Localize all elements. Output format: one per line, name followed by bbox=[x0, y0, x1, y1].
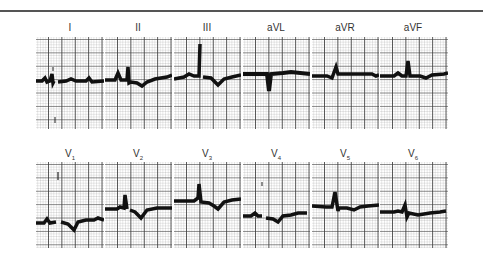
lead-label-V5: V5 bbox=[310, 148, 380, 161]
lead-label-aVR: aVR bbox=[310, 22, 380, 33]
ecg-trace-V5 bbox=[312, 162, 379, 248]
ecg-panel-aVR bbox=[312, 37, 379, 129]
lead-label-III: III bbox=[172, 22, 242, 33]
ecg-panel-V4 bbox=[243, 162, 310, 248]
ecg-trace-III bbox=[174, 37, 241, 129]
lead-label-V6: V6 bbox=[378, 148, 448, 161]
ecg-trace-V3 bbox=[174, 162, 241, 248]
ecg-panel-V6 bbox=[380, 162, 448, 248]
lead-label-V3: V3 bbox=[172, 148, 242, 161]
ecg-panel-V2 bbox=[105, 162, 172, 248]
ecg-panel-aVF bbox=[380, 37, 448, 129]
ecg-panel-aVL bbox=[243, 37, 310, 129]
lead-label-I: I bbox=[35, 22, 105, 33]
ecg-trace-aVL bbox=[243, 37, 310, 129]
ecg-trace-aVR bbox=[312, 37, 379, 129]
top-rule bbox=[0, 10, 483, 12]
lead-label-aVL: aVL bbox=[241, 22, 311, 33]
lead-label-II: II bbox=[103, 22, 173, 33]
ecg-panel-V5 bbox=[312, 162, 379, 248]
lead-label-V2: V2 bbox=[103, 148, 173, 161]
ecg-panel-III bbox=[174, 37, 241, 129]
ecg-trace-I bbox=[36, 37, 104, 129]
lead-label-V1: V1 bbox=[35, 148, 105, 161]
lead-label-aVF: aVF bbox=[378, 22, 448, 33]
ecg-trace-V2 bbox=[105, 162, 172, 248]
ecg-trace-V6 bbox=[380, 162, 448, 248]
ecg-trace-V1 bbox=[36, 162, 104, 248]
ecg-trace-II bbox=[105, 37, 172, 129]
ecg-panel-V1 bbox=[36, 162, 104, 248]
ecg-panel-I bbox=[36, 37, 104, 129]
ecg-trace-V4 bbox=[243, 162, 310, 248]
lead-label-V4: V4 bbox=[241, 148, 311, 161]
ecg-trace-aVF bbox=[380, 37, 448, 129]
ecg-panel-II bbox=[105, 37, 172, 129]
ecg-panel-V3 bbox=[174, 162, 241, 248]
